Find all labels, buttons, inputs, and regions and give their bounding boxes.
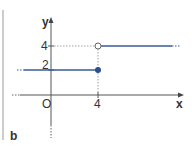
y-axis-label: y [42, 15, 49, 29]
panel-label: b [10, 129, 17, 143]
open-endpoint [95, 43, 101, 49]
y-tick-4: 4 [41, 39, 48, 53]
origin-label: O [42, 97, 51, 111]
x-axis-label: x [176, 97, 183, 111]
step-function-chart: y x 4 2 4 O b [0, 0, 192, 147]
x-tick-4: 4 [94, 97, 101, 111]
y-axis [49, 17, 54, 138]
y-arrow-icon [49, 17, 54, 23]
y-tick-2: 2 [42, 58, 49, 72]
closed-endpoint [95, 67, 101, 73]
